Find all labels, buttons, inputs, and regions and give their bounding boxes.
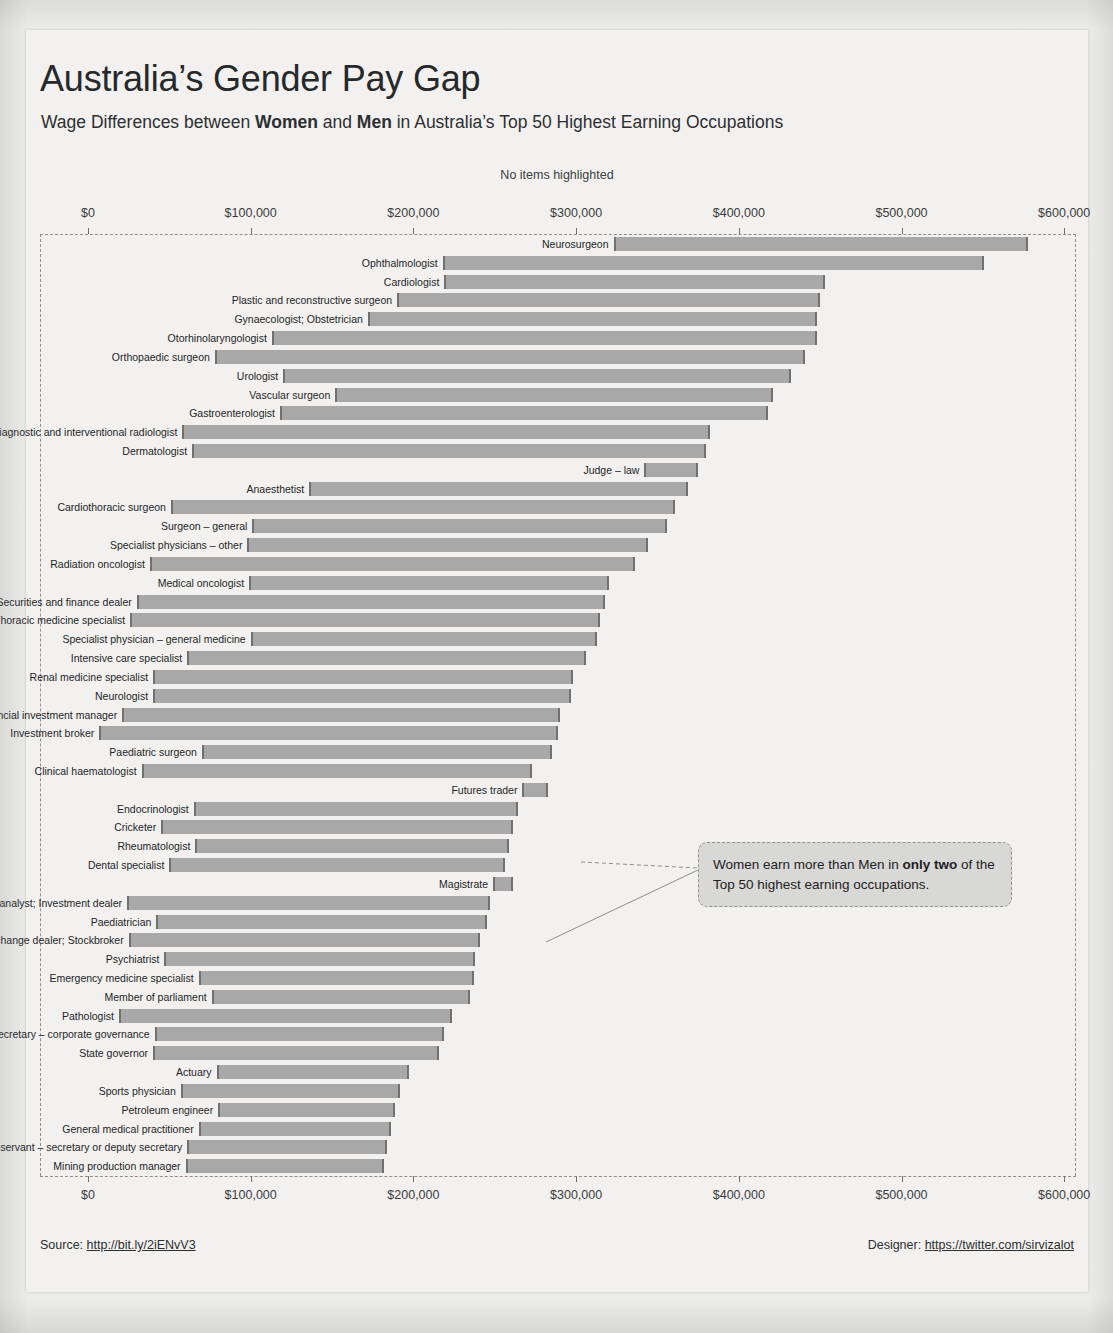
bar-row[interactable]: Futures trader <box>40 781 1076 800</box>
bar-row[interactable]: Public servant – secretary or deputy sec… <box>40 1138 1076 1157</box>
bar-row[interactable]: Intensive care specialist <box>40 649 1076 668</box>
bar-row[interactable]: Petroleum engineer <box>40 1101 1076 1120</box>
bar-row[interactable]: Gastroenterologist <box>40 404 1076 423</box>
wage-gap-bar[interactable] <box>186 1159 384 1173</box>
wage-gap-bar[interactable] <box>127 896 490 910</box>
bar-row[interactable]: Cardiothoracic surgeon <box>40 498 1076 517</box>
wage-gap-bar[interactable] <box>119 1009 453 1023</box>
wage-gap-bar[interactable] <box>335 388 773 402</box>
wage-gap-bar[interactable] <box>194 802 518 816</box>
bar-category-label: Endocrinologist <box>117 802 189 816</box>
bar-row[interactable]: Ophthalmologist <box>40 254 1076 273</box>
wage-gap-bar[interactable] <box>644 463 698 477</box>
wage-gap-bar[interactable] <box>156 915 486 929</box>
bar-row[interactable]: Orthopaedic surgeon <box>40 348 1076 367</box>
bar-row[interactable]: Paediatrician <box>40 913 1076 932</box>
wage-gap-bar[interactable] <box>142 764 532 778</box>
bar-row[interactable]: Neurosurgeon <box>40 235 1076 254</box>
bar-category-label: Urologist <box>237 369 278 383</box>
bar-row[interactable]: Securities and finance dealer <box>40 593 1076 612</box>
bar-row[interactable]: Dermatologist <box>40 442 1076 461</box>
bar-row[interactable]: Urologist <box>40 367 1076 386</box>
bar-row[interactable]: Cardiologist <box>40 273 1076 292</box>
bar-row[interactable]: State governor <box>40 1044 1076 1063</box>
wage-gap-bar[interactable] <box>212 990 471 1004</box>
bar-row[interactable]: Judge – law <box>40 461 1076 480</box>
wage-gap-bar[interactable] <box>283 369 791 383</box>
designer-link[interactable]: https://twitter.com/sirvizalot <box>925 1238 1074 1252</box>
bar-row[interactable]: Specialist physician – general medicine <box>40 630 1076 649</box>
bar-row[interactable]: Psychiatrist <box>40 950 1076 969</box>
wage-gap-bar[interactable] <box>272 331 817 345</box>
bar-row[interactable]: Paediatric surgeon <box>40 743 1076 762</box>
wage-gap-bar[interactable] <box>217 1065 409 1079</box>
wage-gap-bar[interactable] <box>309 482 688 496</box>
wage-gap-bar[interactable] <box>192 444 706 458</box>
wage-gap-bar[interactable] <box>187 1140 387 1154</box>
wage-gap-bar[interactable] <box>99 726 558 740</box>
wage-gap-bar[interactable] <box>252 519 667 533</box>
bar-row[interactable]: Thoracic medicine specialist <box>40 611 1076 630</box>
wage-gap-bar[interactable] <box>155 1027 445 1041</box>
bar-row[interactable]: General medical practitioner <box>40 1120 1076 1139</box>
wage-gap-bar[interactable] <box>161 820 512 834</box>
wage-gap-bar[interactable] <box>171 500 675 514</box>
bar-row[interactable]: Vascular surgeon <box>40 386 1076 405</box>
wage-gap-bar[interactable] <box>280 406 768 420</box>
wage-gap-bar[interactable] <box>182 425 709 439</box>
wage-gap-bar[interactable] <box>251 632 598 646</box>
bar-row[interactable]: Plastic and reconstructive surgeon <box>40 291 1076 310</box>
wage-gap-bar[interactable] <box>153 670 573 684</box>
wage-gap-bar[interactable] <box>169 858 504 872</box>
bar-row[interactable]: Surgeon – general <box>40 517 1076 536</box>
bar-row[interactable]: Clinical haematologist <box>40 762 1076 781</box>
bar-row[interactable]: Endocrinologist <box>40 800 1076 819</box>
wage-gap-bar[interactable] <box>137 595 606 609</box>
wage-gap-bar[interactable] <box>368 312 817 326</box>
bar-row[interactable]: Investment broker <box>40 724 1076 743</box>
bar-row[interactable]: Radiation oncologist <box>40 555 1076 574</box>
wage-gap-bar[interactable] <box>199 1122 391 1136</box>
bar-row[interactable]: Medical oncologist <box>40 574 1076 593</box>
bar-row[interactable]: Cricketer <box>40 818 1076 837</box>
wage-gap-bar[interactable] <box>614 237 1029 251</box>
wage-gap-bar[interactable] <box>122 708 560 722</box>
wage-gap-bar[interactable] <box>195 839 509 853</box>
wage-gap-bar[interactable] <box>199 971 474 985</box>
bar-row[interactable]: Financial investment manager <box>40 706 1076 725</box>
wage-gap-bar[interactable] <box>153 1046 439 1060</box>
wage-gap-bar[interactable] <box>153 689 571 703</box>
wage-gap-bar[interactable] <box>215 350 806 364</box>
wage-gap-bar[interactable] <box>249 576 609 590</box>
bar-row[interactable]: Neurologist <box>40 687 1076 706</box>
bar-row[interactable]: Renal medicine specialist <box>40 668 1076 687</box>
wage-gap-bar[interactable] <box>444 275 825 289</box>
bar-row[interactable]: Member of parliament <box>40 988 1076 1007</box>
wage-gap-bar[interactable] <box>129 933 480 947</box>
bar-row[interactable]: Otorhinolaryngologist <box>40 329 1076 348</box>
wage-gap-bar[interactable] <box>218 1103 395 1117</box>
wage-gap-bar[interactable] <box>181 1084 401 1098</box>
wage-gap-bar[interactable] <box>164 952 475 966</box>
bar-row[interactable]: Stock exchange dealer; Stockbroker <box>40 931 1076 950</box>
bar-row[interactable]: Specialist physicians – other <box>40 536 1076 555</box>
wage-gap-bar[interactable] <box>130 613 600 627</box>
wage-gap-bar[interactable] <box>522 783 548 797</box>
source-link[interactable]: http://bit.ly/2iENvV3 <box>87 1238 196 1252</box>
wage-gap-bar[interactable] <box>493 877 513 891</box>
wage-gap-bar[interactable] <box>397 293 820 307</box>
bar-row[interactable]: Diagnostic and interventional radiologis… <box>40 423 1076 442</box>
bar-row[interactable]: Anaesthetist <box>40 480 1076 499</box>
bar-row[interactable]: Actuary <box>40 1063 1076 1082</box>
x-axis-tick-label: $100,000 <box>225 206 277 220</box>
wage-gap-bar[interactable] <box>202 745 552 759</box>
wage-gap-bar[interactable] <box>443 256 985 270</box>
wage-gap-bar[interactable] <box>150 557 635 571</box>
bar-row[interactable]: Pathologist <box>40 1007 1076 1026</box>
wage-gap-bar[interactable] <box>247 538 647 552</box>
bar-row[interactable]: Emergency medicine specialist <box>40 969 1076 988</box>
bar-row[interactable]: Company secretary – corporate governance <box>40 1025 1076 1044</box>
wage-gap-bar[interactable] <box>187 651 586 665</box>
bar-row[interactable]: Gynaecologist; Obstetrician <box>40 310 1076 329</box>
bar-row[interactable]: Sports physician <box>40 1082 1076 1101</box>
